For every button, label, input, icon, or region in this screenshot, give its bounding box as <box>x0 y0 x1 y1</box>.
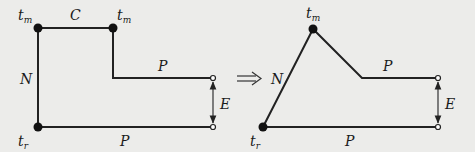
node-tm-left <box>34 24 43 33</box>
label-N-right: N <box>270 71 284 87</box>
label-tm-right: tm <box>117 7 131 25</box>
node-tr <box>34 123 43 132</box>
node-tm <box>309 25 318 34</box>
node-open-top <box>211 76 216 81</box>
node-open-bottom-right <box>436 125 441 130</box>
node-tr-right <box>259 123 268 132</box>
label-tm-left: tm <box>18 7 32 25</box>
left-diagram: tm C tm N P E tr P <box>18 7 230 151</box>
right-diagram: tm N P E tr P <box>250 5 455 151</box>
node-tm-right <box>109 24 118 33</box>
edge-path-left <box>38 28 213 127</box>
label-N-left: N <box>19 71 33 87</box>
label-tr-left: tr <box>18 133 29 151</box>
implies-arrow <box>237 72 261 85</box>
diagram-canvas: tm C tm N P E tr P tm N P E tr P <box>0 0 475 152</box>
label-P-bottom-right: P <box>344 133 355 149</box>
label-P-bottom-left: P <box>119 133 130 149</box>
label-E-left: E <box>219 96 230 112</box>
label-tm-right-diagram: tm <box>306 5 320 23</box>
label-P-top-left: P <box>157 58 168 74</box>
node-open-bottom <box>211 125 216 130</box>
label-C: C <box>70 7 81 23</box>
label-E-right: E <box>444 96 455 112</box>
edge-path-right <box>263 29 438 127</box>
label-tr-right: tr <box>250 133 261 151</box>
label-P-top-right: P <box>382 58 393 74</box>
node-open-top-right <box>436 76 441 81</box>
